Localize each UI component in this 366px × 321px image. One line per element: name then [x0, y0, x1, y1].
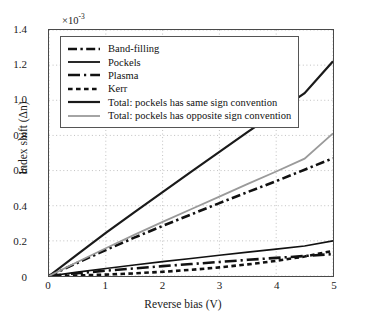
legend-label: Plasma [108, 70, 138, 81]
y-tick-label: 0.2 [0, 236, 27, 247]
x-tick-label: 3 [208, 280, 232, 291]
legend: Band-fillingPockelsPlasmaKerrTotal: pock… [60, 36, 299, 128]
figure-chart-index-shift: ×10-3 Index shift (Δn) Reverse bias (V) … [0, 0, 366, 321]
curve-series-2 [49, 254, 333, 276]
x-tick-label: 5 [322, 280, 346, 291]
legend-line-sample-5 [67, 110, 101, 122]
x-axis-title: Reverse bias (V) [0, 298, 366, 310]
y-tick-label: 1.2 [0, 59, 27, 70]
x-tick-label: 1 [93, 280, 117, 291]
legend-line-sample-1 [67, 56, 101, 68]
y-tick-label: 0 [0, 272, 27, 283]
y-axis-multiplier: ×10-3 [62, 12, 85, 26]
y-tick-label: 0.8 [0, 130, 27, 141]
legend-item[interactable]: Band-filling [67, 42, 291, 55]
legend-line-sample-2 [67, 69, 101, 81]
curve-series-5 [49, 133, 333, 276]
multiplier-base: ×10 [62, 15, 78, 26]
y-tick-label: 1.4 [0, 24, 27, 35]
legend-label: Kerr [108, 83, 127, 94]
y-tick-label: 1.0 [0, 94, 27, 105]
legend-item[interactable]: Pockels [67, 55, 291, 68]
legend-item[interactable]: Total: pockels has opposite sign convent… [67, 109, 291, 122]
legend-label: Total: pockels has same sign convention [108, 97, 277, 108]
legend-line-sample-0 [67, 43, 101, 55]
x-tick-label: 4 [265, 280, 289, 291]
x-tick-label: 2 [150, 280, 174, 291]
x-tick-label: 0 [36, 280, 60, 291]
legend-label: Pockels [108, 57, 141, 68]
legend-line-sample-4 [67, 96, 101, 108]
y-tick-label: 0.4 [0, 201, 27, 212]
y-tick-label: 0.6 [0, 165, 27, 176]
legend-label: Total: pockels has opposite sign convent… [108, 110, 291, 121]
legend-line-sample-3 [67, 83, 101, 95]
legend-item[interactable]: Kerr [67, 82, 291, 95]
legend-item[interactable]: Total: pockels has same sign convention [67, 96, 291, 109]
legend-label: Band-filling [108, 43, 159, 54]
legend-item[interactable]: Plasma [67, 69, 291, 82]
multiplier-exponent: -3 [78, 12, 84, 21]
